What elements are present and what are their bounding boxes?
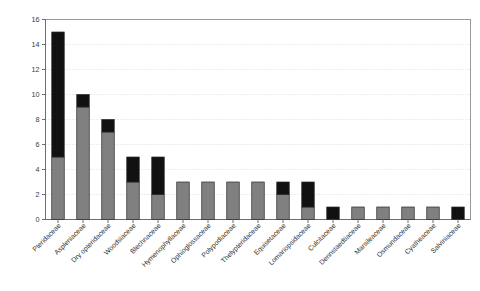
- y-tick-label: 12: [32, 65, 40, 74]
- bar-segment-lower: [377, 207, 390, 220]
- y-tick-label: 2: [36, 190, 40, 199]
- bar-segment-lower: [252, 182, 265, 220]
- y-tick-label: 14: [32, 40, 40, 49]
- bar-segment-upper: [277, 182, 290, 195]
- bar-segment-lower: [352, 207, 365, 220]
- bar-segment-upper: [127, 157, 140, 182]
- bar-segment-lower: [402, 207, 415, 220]
- bar-segment-upper: [152, 157, 165, 195]
- y-tick-label: 10: [32, 90, 40, 99]
- y-tick-label: 0: [36, 215, 40, 224]
- stacked-bar-chart: 0246810121416 PteridaceaeAspleniaceaeDry…: [0, 0, 480, 291]
- bar-segment-upper: [302, 182, 315, 207]
- bar-segment-upper: [102, 120, 115, 133]
- bar-segment-lower: [177, 182, 190, 220]
- bar-segment-lower: [127, 182, 140, 220]
- bar-segment-lower: [202, 182, 215, 220]
- bar-segment-lower: [427, 207, 440, 220]
- bar-segment-lower: [77, 107, 90, 220]
- bar-segment-lower: [52, 157, 65, 220]
- bar-segment-lower: [102, 132, 115, 220]
- bar-segment-lower: [302, 207, 315, 220]
- bar-segment-lower: [227, 182, 240, 220]
- y-tick-label: 6: [36, 140, 40, 149]
- bar-segment-upper: [52, 32, 65, 157]
- bar-segment-lower: [277, 195, 290, 220]
- bar-segment-upper: [77, 95, 90, 108]
- chart-container: 0246810121416 PteridaceaeAspleniaceaeDry…: [0, 0, 480, 291]
- bar-segment-lower: [152, 195, 165, 220]
- bar-segment-upper: [327, 207, 340, 220]
- bar-segment-upper: [452, 207, 465, 220]
- y-tick-label: 8: [36, 115, 40, 124]
- y-tick-label: 4: [36, 165, 40, 174]
- y-tick-label: 16: [32, 15, 40, 24]
